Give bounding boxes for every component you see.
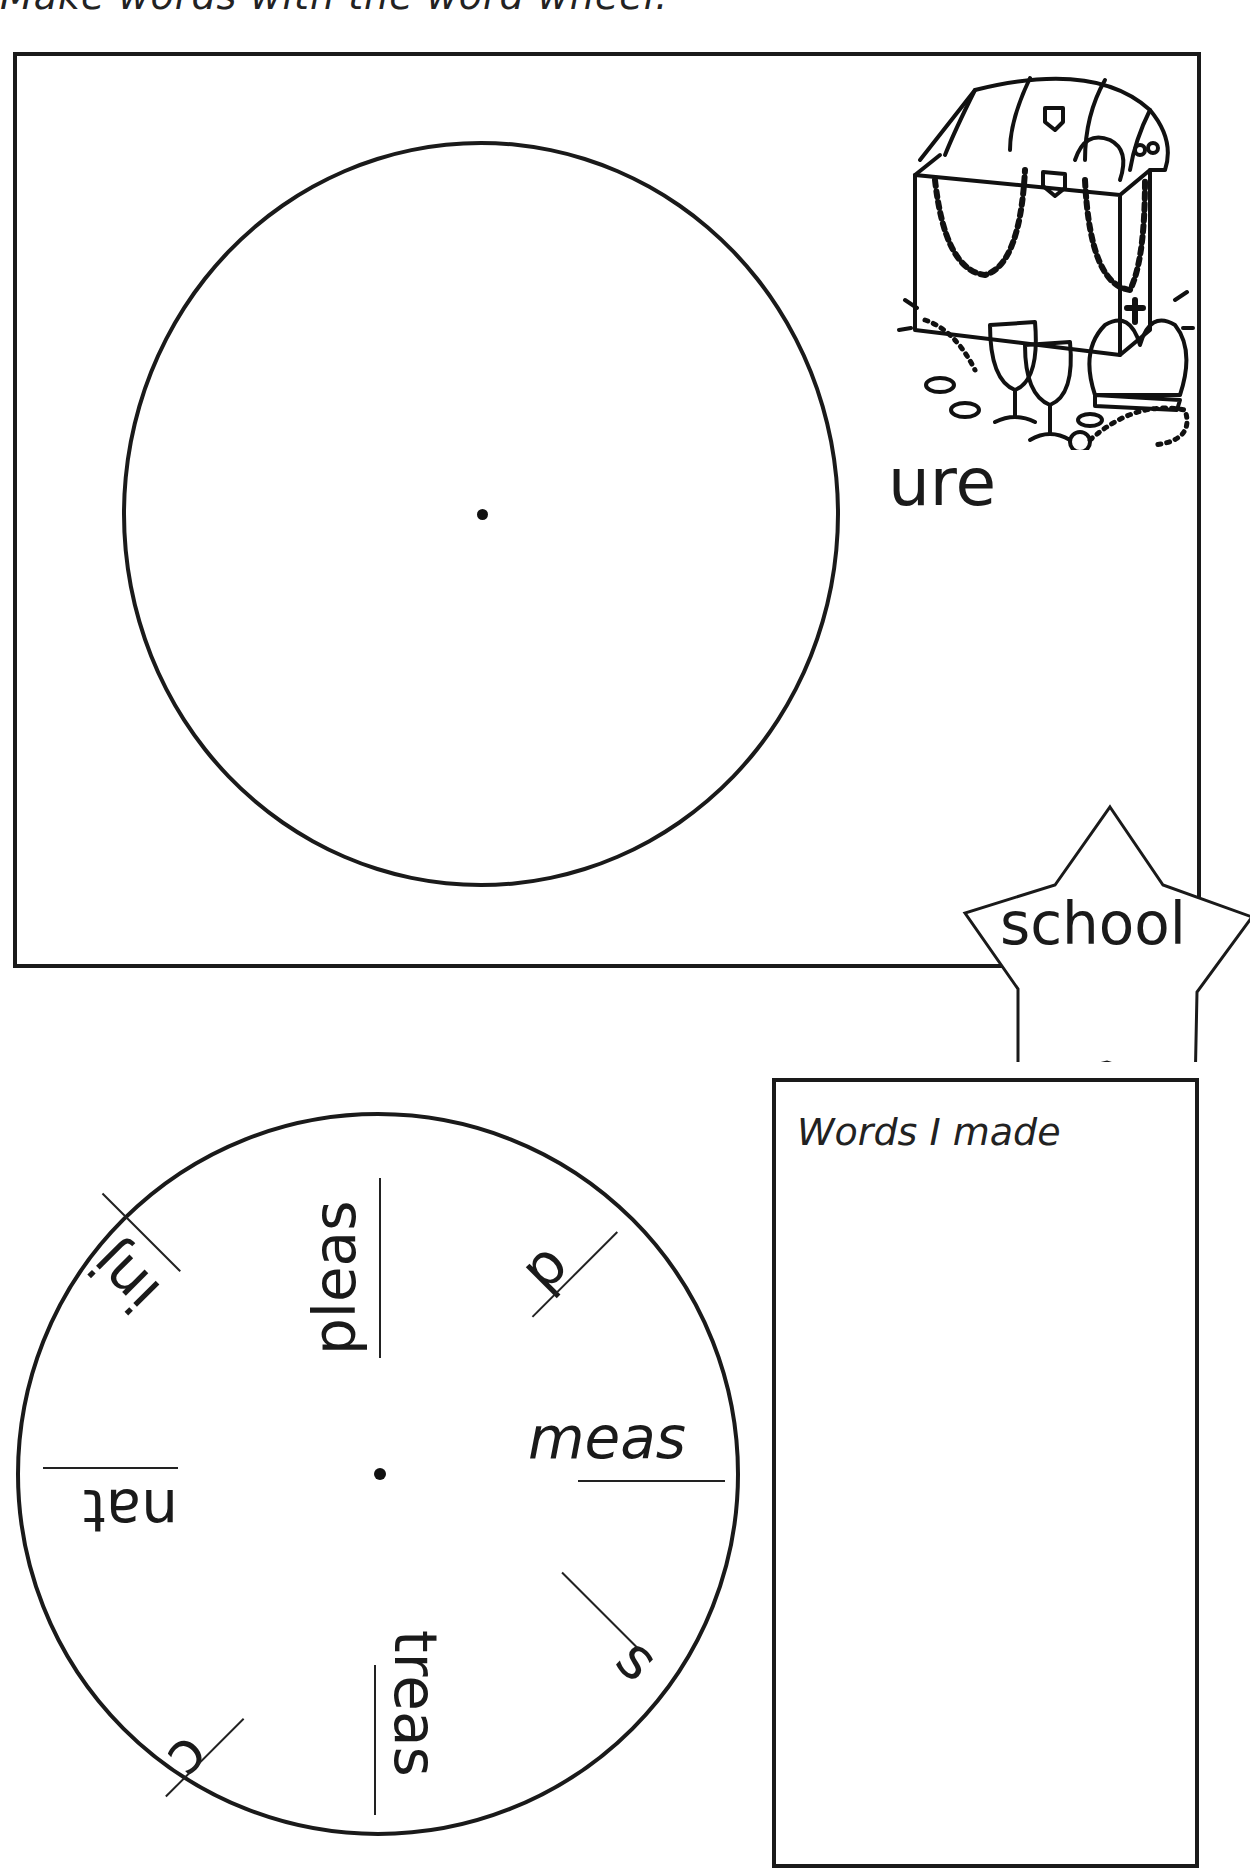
words-made-title: Words I made (797, 1110, 1061, 1154)
suffix-label: ure (888, 450, 996, 516)
word-wheel-pivot-dot (374, 1468, 386, 1480)
svg-text:nat: nat (83, 1476, 178, 1544)
svg-text:treas: treas (381, 1630, 449, 1777)
words-made-box[interactable] (772, 1078, 1199, 1868)
treasure-chest-icon (895, 60, 1195, 450)
svg-text:pleas: pleas (301, 1201, 369, 1355)
star-word: school (1000, 895, 1186, 953)
svg-text:meas: meas (528, 1404, 686, 1472)
instruction-heading: Make words with the word wheel. (0, 0, 668, 18)
wheel-segment-pleas: pleas (301, 1178, 380, 1358)
word-wheel[interactable]: pleas p meas s treas c nat inj (0, 1090, 760, 1850)
upper-wheel-pivot-dot (477, 509, 488, 520)
